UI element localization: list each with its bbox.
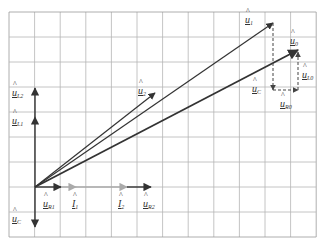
label-u-r1: u^R1 [43, 199, 55, 210]
label-u-1: u^1 [245, 15, 253, 26]
label-u-l2: u^L2 [12, 88, 23, 99]
label-i-2: I^2 [118, 199, 124, 210]
label-u-2: u^2 [138, 86, 146, 97]
label-u-l0: u^L0 [302, 70, 313, 81]
label-i-1: I^1 [72, 199, 78, 210]
vector-u-0 [35, 50, 298, 187]
label-u-c-left: u^C [12, 214, 21, 225]
label-u-0: u^0 [290, 36, 298, 47]
label-u-r0: u^R0 [280, 99, 292, 110]
grid [9, 12, 316, 237]
label-u-l1: u^L1 [12, 116, 23, 127]
label-u-r2: u^R2 [143, 199, 155, 210]
label-u-c-right: u^C [252, 84, 261, 95]
